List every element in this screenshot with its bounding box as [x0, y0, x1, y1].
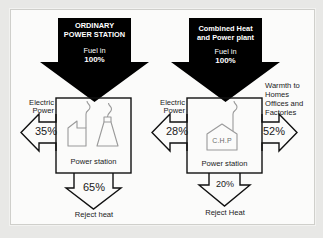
cooling-tower-icon	[97, 103, 118, 146]
warmth-label-line4: Factories	[265, 109, 313, 117]
warmth-value: 52%	[257, 126, 291, 138]
right-fuel-arrow-title-line1: Combined Heat	[171, 25, 280, 33]
diagram-frame: ORDINARY POWER STATION Fuel in 100% Elec…	[10, 9, 315, 225]
right-electric-power-value: 28%	[160, 126, 194, 138]
factory-with-chimney-icon	[68, 101, 90, 146]
right-fuel-in-value: 100%	[171, 57, 280, 66]
warmth-label-line3: Offices and	[265, 100, 313, 108]
left-electric-power-label-line2: Power	[18, 107, 54, 115]
left-fuel-arrow-title-line1: ORDINARY	[40, 22, 149, 30]
chp-icon-label: C.H.P	[207, 137, 237, 145]
left-fuel-in-label: Fuel in	[40, 47, 149, 55]
left-fuel-in-value: 100%	[40, 56, 149, 65]
left-reject-heat-label: Reject heat	[61, 211, 127, 219]
right-fuel-in-label: Fuel in	[171, 48, 280, 56]
left-plant-box-caption: Power station	[56, 158, 131, 166]
right-electric-power-label-line2: Power	[149, 107, 185, 115]
left-electric-power-value: 35%	[29, 126, 63, 138]
right-plant-box-caption: Power station	[187, 160, 262, 168]
right-reject-heat-value: 20%	[207, 180, 243, 190]
left-reject-heat-value: 65%	[75, 182, 113, 194]
warmth-label-line1: Warmth to	[265, 82, 313, 90]
left-fuel-arrow-title-line2: POWER STATION	[40, 31, 149, 39]
diagram-stage: ORDINARY POWER STATION Fuel in 100% Elec…	[11, 10, 314, 224]
right-fuel-arrow-title-line2: and Power plant	[171, 34, 280, 42]
warmth-label-line2: Homes	[265, 91, 313, 99]
right-reject-heat-label: Reject Heat	[192, 209, 258, 217]
